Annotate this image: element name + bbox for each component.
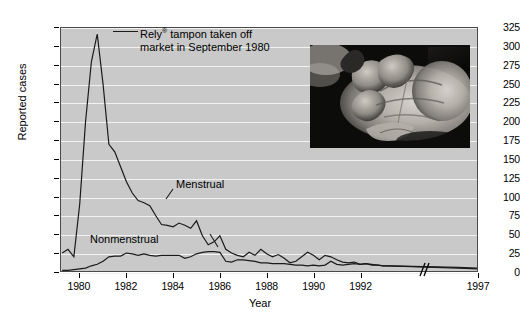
y-tick-label: 150	[466, 154, 520, 164]
x-tick-mark	[79, 273, 80, 278]
y-tick-mark	[54, 272, 59, 273]
gridline	[61, 273, 477, 274]
y-tick-label: 50	[466, 229, 520, 239]
x-tick-mark	[314, 273, 315, 278]
y-tick-mark	[54, 102, 59, 103]
y-tick-mark	[54, 121, 59, 122]
y-tick-mark	[54, 178, 59, 179]
y-tick-label: 100	[466, 192, 520, 202]
x-tick-mark	[361, 273, 362, 278]
y-tick-label: 300	[466, 41, 520, 51]
y-tick-label: 25	[466, 248, 520, 258]
inset-photo-hand-desquamation	[310, 45, 470, 148]
chart-figure: 0255075100125150175200225250275300325 Re…	[0, 0, 520, 320]
y-tick-mark	[54, 253, 59, 254]
y-tick-mark	[54, 46, 59, 47]
y-tick-label: 175	[466, 135, 520, 145]
annotation-line-2: market in September 1980	[140, 41, 270, 55]
series-label-nonmenstrual: Nonmenstrual	[90, 233, 158, 245]
annotation-rely-tampon: Rely® tampon taken off market in Septemb…	[140, 24, 270, 55]
x-tick-label: 1986	[197, 280, 243, 292]
y-tick-label: 75	[466, 210, 520, 220]
x-tick-mark	[478, 273, 479, 278]
annotation-line-1: Rely® tampon taken off	[140, 24, 270, 41]
x-tick-label: 1992	[338, 280, 384, 292]
y-tick-mark	[54, 234, 59, 235]
y-axis-title: Reported cases	[16, 32, 28, 172]
series-label-menstrual: Menstrual	[176, 178, 224, 190]
y-tick-mark	[54, 27, 59, 28]
x-tick-label: 1982	[103, 280, 149, 292]
annotation-text-tail: tampon taken off	[167, 28, 252, 40]
x-tick-label: 1990	[291, 280, 337, 292]
x-axis-title: Year	[0, 297, 520, 309]
x-tick-mark	[267, 273, 268, 278]
y-tick-label: 250	[466, 79, 520, 89]
y-tick-mark	[54, 197, 59, 198]
annotation-leader-line	[113, 31, 138, 32]
y-tick-mark	[54, 140, 59, 141]
y-tick-mark	[54, 84, 59, 85]
axis-break-icon	[416, 262, 432, 278]
x-tick-mark	[126, 273, 127, 278]
y-tick-mark	[54, 159, 59, 160]
x-tick-label: 1997	[455, 280, 501, 292]
y-tick-label: 225	[466, 97, 520, 107]
y-tick-label: 275	[466, 60, 520, 70]
y-tick-label: 200	[466, 116, 520, 126]
annotation-text-rely: Rely	[140, 28, 162, 40]
x-tick-label: 1988	[244, 280, 290, 292]
x-tick-mark	[173, 273, 174, 278]
y-tick-label: 0	[466, 267, 520, 277]
y-tick-label: 325	[466, 22, 520, 32]
series-line-nonmenstrual	[62, 252, 477, 271]
y-tick-label: 125	[466, 173, 520, 183]
y-tick-mark	[54, 65, 59, 66]
x-tick-label: 1984	[150, 280, 196, 292]
x-tick-label: 1980	[56, 280, 102, 292]
y-tick-mark	[54, 215, 59, 216]
x-tick-mark	[220, 273, 221, 278]
